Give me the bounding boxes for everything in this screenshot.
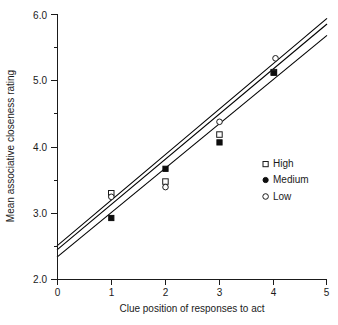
point-high-x3 xyxy=(217,132,223,138)
x-tick-label-3: 3 xyxy=(217,287,223,298)
legend-label-high: High xyxy=(273,158,294,169)
point-medium-x1 xyxy=(109,215,114,220)
x-axis-title: Clue position of responses to act xyxy=(119,303,264,314)
legend-marker-low xyxy=(263,194,269,200)
y-tick-label-6.0: 6.0 xyxy=(33,10,47,21)
axes-group xyxy=(51,14,327,285)
point-low-x1 xyxy=(109,194,115,200)
point-low-x3 xyxy=(217,119,223,125)
x-tick-label-4: 4 xyxy=(271,287,277,298)
x-tick-label-0: 0 xyxy=(55,287,61,298)
y-tick-label-5.0: 5.0 xyxy=(33,75,47,86)
point-medium-x4 xyxy=(271,70,276,75)
legend: High Medium Low xyxy=(263,158,309,202)
point-low-x2 xyxy=(163,184,169,190)
legend-label-medium: Medium xyxy=(273,174,309,185)
legend-label-low: Low xyxy=(273,191,292,202)
x-tick-label-2: 2 xyxy=(163,287,169,298)
y-tick-label-4.0: 4.0 xyxy=(33,142,47,153)
legend-marker-high xyxy=(263,162,268,167)
scatter-chart-figure: 2.0 3.0 4.0 5.0 6.0 0 1 2 3 4 5 Clue pos… xyxy=(0,0,338,325)
point-medium-x2 xyxy=(163,166,168,171)
y-tick-label-3.0: 3.0 xyxy=(33,208,47,219)
data-points-x2 xyxy=(163,166,169,190)
chart-canvas: 2.0 3.0 4.0 5.0 6.0 0 1 2 3 4 5 Clue pos… xyxy=(0,0,338,325)
point-low-x4 xyxy=(273,56,279,62)
point-medium-x3 xyxy=(217,140,222,145)
x-tick-label-5: 5 xyxy=(324,287,330,298)
fit-line-low xyxy=(57,18,327,246)
point-high-x2 xyxy=(163,179,169,185)
y-tick-label-2.0: 2.0 xyxy=(33,274,47,285)
y-axis-title: Mean associative closeness rating xyxy=(5,70,16,222)
fit-lines-group xyxy=(57,18,327,257)
legend-marker-medium xyxy=(263,177,268,182)
data-points-x3 xyxy=(217,119,223,145)
x-tick-label-1: 1 xyxy=(109,287,115,298)
fit-line-high xyxy=(57,24,327,250)
fit-line-medium xyxy=(57,35,327,257)
